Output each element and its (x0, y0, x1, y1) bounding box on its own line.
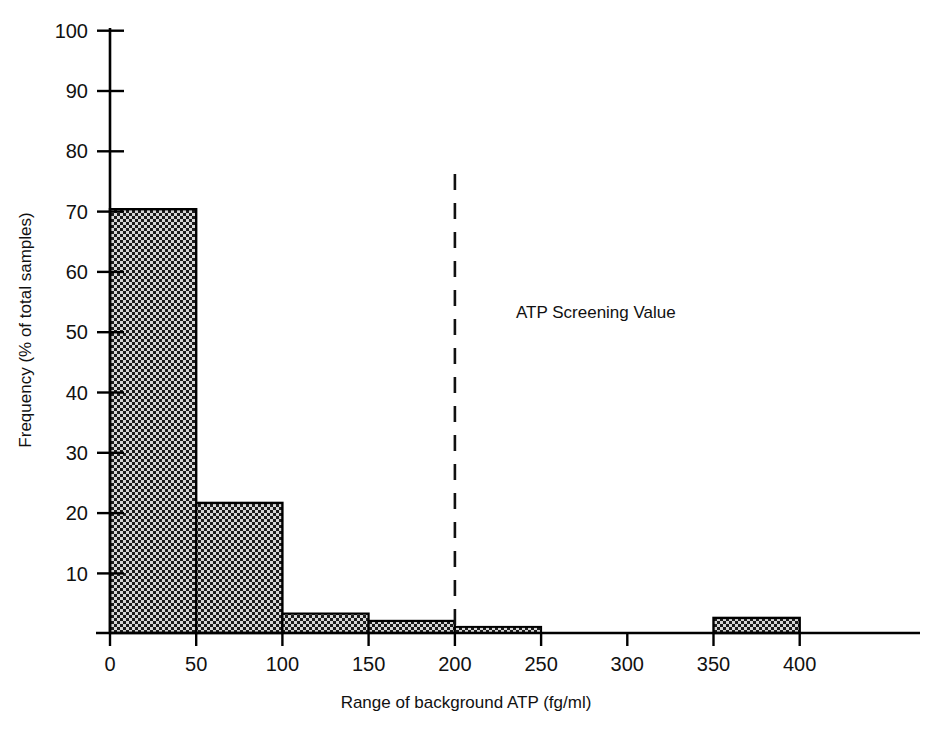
bar-rect (369, 621, 455, 633)
x-tick-label-50: 50 (185, 653, 207, 675)
y-tick-label-10: 10 (66, 563, 88, 585)
histogram-svg: 100 90 80 70 60 50 40 30 20 10 0 50 (0, 0, 934, 735)
bar-rect (196, 503, 282, 633)
bar-rect (714, 618, 800, 633)
x-tick-label-400: 400 (783, 653, 816, 675)
y-tick-label-80: 80 (66, 140, 88, 162)
x-tick-label-350: 350 (697, 653, 730, 675)
y-tick-label-70: 70 (66, 201, 88, 223)
x-tick-label-150: 150 (352, 653, 385, 675)
y-tick-label-20: 20 (66, 502, 88, 524)
y-tick-label-60: 60 (66, 261, 88, 283)
y-tick-label-50: 50 (66, 321, 88, 343)
bar-150-200 (369, 621, 455, 633)
atp-screening-value-label: ATP Screening Value (516, 303, 676, 322)
x-tick-label-300: 300 (611, 653, 644, 675)
x-tick-label-0: 0 (104, 653, 115, 675)
bar-50-100 (196, 503, 282, 633)
bar-rect (282, 614, 368, 633)
x-axis-title: Range of background ATP (fg/ml) (341, 693, 592, 712)
y-axis-title: Frequency (% of total samples) (16, 212, 35, 447)
x-tick-label-250: 250 (524, 653, 557, 675)
bar-100-150 (282, 614, 368, 633)
chart-figure: 100 90 80 70 60 50 40 30 20 10 0 50 (0, 0, 934, 735)
bar-350-400 (714, 618, 800, 633)
y-tick-label-40: 40 (66, 382, 88, 404)
y-tick-label-100: 100 (55, 20, 88, 42)
y-tick-label-90: 90 (66, 80, 88, 102)
x-tick-label-200: 200 (438, 653, 471, 675)
y-tick-label-30: 30 (66, 442, 88, 464)
x-tick-label-100: 100 (266, 653, 299, 675)
